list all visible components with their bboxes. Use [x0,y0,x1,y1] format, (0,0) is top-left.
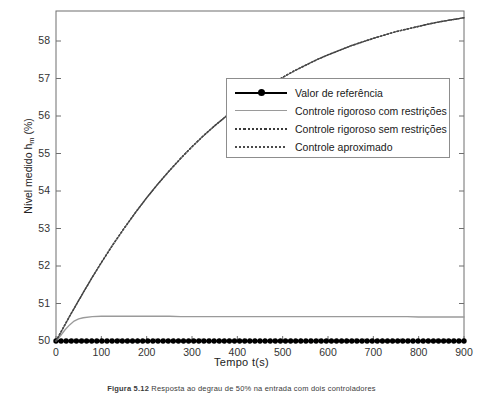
legend-swatch-approximate [233,140,289,154]
legend-item-reference[interactable]: Valor de referência [233,84,443,102]
x-tick-100: 100 [81,346,121,358]
y-tick-54: 54 [24,184,50,196]
legend-label-constrained: Controle rigoroso com restrições [295,105,447,117]
figure-container: Nível medido hm (%) Tempo t(s) 505152535… [0,0,483,393]
figure-caption: Figura 5.12 Resposta ao degrau de 50% na… [0,384,483,393]
y-axis-title-unit: (%) [22,118,34,137]
legend-swatch-unconstrained [233,122,289,136]
chart-plot-area [0,0,483,393]
y-tick-50: 50 [24,334,50,346]
chart-legend: Valor de referência Controle rigoroso co… [226,78,450,158]
y-tick-58: 58 [24,34,50,46]
legend-swatch-reference [233,86,289,100]
x-tick-0: 0 [36,346,76,358]
y-tick-55: 55 [24,147,50,159]
x-tick-300: 300 [172,346,212,358]
x-tick-700: 700 [353,346,393,358]
y-tick-56: 56 [24,109,50,121]
y-tick-52: 52 [24,259,50,271]
x-tick-400: 400 [217,346,257,358]
y-tick-53: 53 [24,222,50,234]
legend-item-constrained[interactable]: Controle rigoroso com restrições [233,102,443,120]
legend-swatch-constrained [233,104,289,118]
y-tick-57: 57 [24,72,50,84]
y-axis-title-subscript: m [27,137,36,143]
legend-item-unconstrained[interactable]: Controle rigoroso sem restrições [233,120,443,138]
figure-caption-text: Resposta ao degrau de 50% na entrada com… [151,384,375,393]
x-tick-800: 800 [399,346,439,358]
x-tick-900: 900 [444,346,483,358]
figure-caption-label: Figura 5.12 [107,384,149,393]
x-tick-600: 600 [308,346,348,358]
legend-item-approximate[interactable]: Controle aproximado [233,138,443,156]
legend-label-unconstrained: Controle rigoroso sem restrições [295,123,447,135]
legend-label-reference: Valor de referência [295,87,383,99]
legend-label-approximate: Controle aproximado [295,141,392,153]
y-tick-51: 51 [24,297,50,309]
x-tick-500: 500 [263,346,303,358]
x-tick-200: 200 [127,346,167,358]
